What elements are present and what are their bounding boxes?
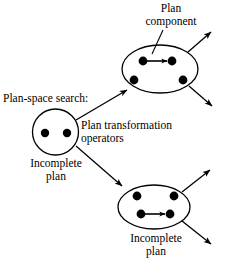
successor-edge-bottom-upper xyxy=(182,170,210,192)
plan-component-label-line1: Plan xyxy=(128,2,214,15)
plan-step-dot xyxy=(179,76,188,85)
plan-step-dot xyxy=(170,192,179,201)
incomplete-plan-label-bottom: Incomplete plan xyxy=(112,232,200,258)
incomplete-plan-bottom-line2: plan xyxy=(112,245,200,258)
incomplete-plan-left-line1: Incomplete xyxy=(12,157,100,170)
plan-transformation-label-line1: Plan transformation xyxy=(81,119,201,132)
diagram-canvas: Plan component Plan-space search: Plan t… xyxy=(0,0,227,275)
plan-node-bottom-outline xyxy=(118,185,190,229)
plan-space-search-label: Plan-space search: xyxy=(3,92,109,105)
plan-step-dot xyxy=(166,210,175,219)
incomplete-plan-node-left-outline xyxy=(33,109,79,155)
plan-step-dot xyxy=(133,192,142,201)
plan-step-dot xyxy=(168,57,177,66)
plan-node-top-outline xyxy=(122,45,198,93)
plan-step-dot xyxy=(41,129,49,137)
plan-component-leader-line xyxy=(152,30,163,54)
plan-component-label-line2: component xyxy=(128,15,214,28)
plan-step-dot xyxy=(139,57,148,66)
plan-transformation-operators-label: Plan transformation operators xyxy=(81,119,201,145)
plan-transformation-label-line2: operators xyxy=(81,132,201,145)
plan-step-dot xyxy=(63,129,71,137)
incomplete-plan-bottom-line1: Incomplete xyxy=(112,232,200,245)
successor-edge-top-lower xyxy=(189,86,212,106)
incomplete-plan-label-left: Incomplete plan xyxy=(12,157,100,183)
successor-edge-top-upper xyxy=(188,32,211,52)
plan-component-label: Plan component xyxy=(128,2,214,28)
plan-step-dot xyxy=(137,210,146,219)
plan-step-dot xyxy=(130,76,139,85)
incomplete-plan-left-line2: plan xyxy=(12,170,100,183)
